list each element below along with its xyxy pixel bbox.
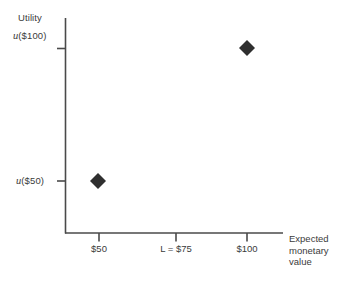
y-axis-title: Utility: [18, 12, 42, 24]
y-tick-label-u100: u($100): [13, 30, 46, 42]
utility-scatter-chart: Utility u($100) u($50) $50 L = $75 $100 …: [0, 0, 345, 284]
x-axis-title-line-2: monetary: [289, 245, 329, 257]
data-point-marker-100: [239, 40, 255, 56]
y-tick-label-u50: u($50): [16, 175, 44, 187]
x-tick-label-100: $100: [236, 243, 257, 254]
y-tick-label-u50-value: ($50): [21, 175, 44, 186]
x-axis-title: Expected monetary value: [289, 233, 329, 268]
x-axis-title-line-1: Expected: [289, 233, 329, 245]
x-axis-title-line-3: value: [289, 256, 329, 268]
y-tick-label-u100-value: ($100): [18, 30, 46, 41]
x-tick-label-75: L = $75: [160, 243, 192, 254]
data-point-marker-50: [90, 173, 106, 189]
x-tick-label-50: $50: [91, 243, 107, 254]
